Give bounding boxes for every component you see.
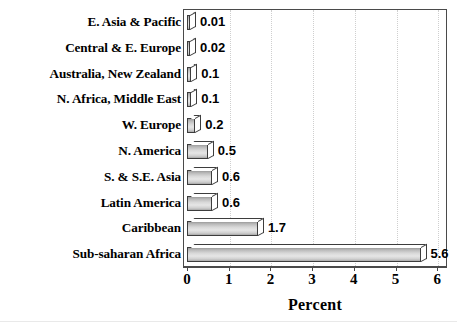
category-label: W. Europe <box>0 118 181 131</box>
bar-side-face <box>212 166 218 184</box>
bar-row: 0.02 <box>183 37 447 63</box>
category-label: Australia, New Zealand <box>0 67 181 80</box>
category-label: S. & S.E. Asia <box>0 170 181 183</box>
bar-row: 1.7 <box>183 217 447 243</box>
bar-value-label: 0.6 <box>222 167 240 187</box>
bar-value-label: 0.1 <box>201 64 219 84</box>
tick-label: 5 <box>384 270 408 289</box>
x-axis-line <box>183 267 447 268</box>
bar-side-face <box>258 218 264 236</box>
tick-label: 1 <box>217 270 241 289</box>
bar-side-face <box>421 244 427 262</box>
bar <box>187 15 190 30</box>
category-label: Sub-saharan Africa <box>0 247 181 260</box>
bar-value-label: 0.1 <box>201 89 219 109</box>
bar <box>187 67 191 82</box>
category-label: Central & E. Europe <box>0 41 181 54</box>
bar-side-face <box>190 12 196 30</box>
bar-row: 0.01 <box>183 11 447 37</box>
category-label: N. Africa, Middle East <box>0 92 181 105</box>
bar-value-label: 0.02 <box>200 38 225 58</box>
tick-label: 4 <box>342 270 366 289</box>
bar-row: 0.5 <box>183 140 447 166</box>
bar-chart: E. Asia & PacificCentral & E. EuropeAust… <box>0 0 457 325</box>
bar <box>187 118 195 133</box>
bar <box>187 170 212 185</box>
bar-value-label: 0.2 <box>205 115 223 135</box>
category-label: Latin America <box>0 196 181 209</box>
category-axis-labels: E. Asia & PacificCentral & E. EuropeAust… <box>0 9 183 267</box>
bar-value-label: 5.6 <box>431 244 449 264</box>
bar-row: 0.2 <box>183 114 447 140</box>
bar-row: 0.1 <box>183 63 447 89</box>
bar <box>187 41 190 56</box>
bar-side-face <box>195 115 201 133</box>
tick-label: 6 <box>425 270 449 289</box>
bar <box>187 247 421 262</box>
bar <box>187 144 208 159</box>
bar-row: 0.6 <box>183 192 447 218</box>
x-axis-title: Percent <box>183 295 447 315</box>
bar-side-face <box>190 37 196 55</box>
tick-label: 2 <box>258 270 282 289</box>
bar-value-label: 0.01 <box>200 12 225 32</box>
bar <box>187 221 258 236</box>
category-label: N. America <box>0 144 181 157</box>
bar-side-face <box>191 63 197 81</box>
bar-row: 0.6 <box>183 166 447 192</box>
bar-side-face <box>208 141 214 159</box>
category-label: Caribbean <box>0 221 181 234</box>
tick-label: 3 <box>300 270 324 289</box>
bar-top-face <box>191 244 426 248</box>
bar <box>187 92 191 107</box>
bar-row: 0.1 <box>183 88 447 114</box>
bars-layer: 0.010.020.10.10.20.50.60.61.75.6 <box>183 9 447 267</box>
bar-side-face <box>191 89 197 107</box>
category-label: E. Asia & Pacific <box>0 15 181 28</box>
bar-row: 5.6 <box>183 243 447 269</box>
bar-value-label: 0.5 <box>218 141 236 161</box>
scan-artifact-line <box>0 321 457 322</box>
bar <box>187 196 212 211</box>
tick-label: 0 <box>175 270 199 289</box>
bar-value-label: 1.7 <box>268 218 286 238</box>
bar-value-label: 0.6 <box>222 193 240 213</box>
bar-side-face <box>212 192 218 210</box>
bar-top-face <box>191 218 263 222</box>
